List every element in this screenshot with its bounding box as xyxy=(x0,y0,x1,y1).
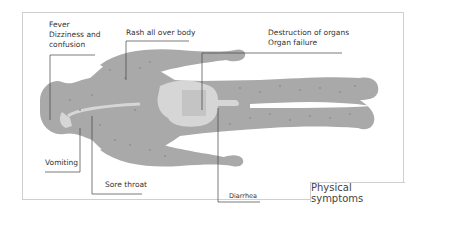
label-fever: Fever Dizziness and confusion xyxy=(49,20,101,50)
label-organs-line2: Organ failure xyxy=(268,38,349,48)
label-diarrhea: Diarrhea xyxy=(229,191,257,201)
label-rash: Rash all over body xyxy=(126,28,196,38)
label-organs: Destruction of organs Organ failure xyxy=(268,28,349,48)
label-fever-line3: confusion xyxy=(49,40,101,50)
label-vomiting: Vomiting xyxy=(45,158,78,168)
label-sore-throat: Sore throat xyxy=(105,180,147,190)
diagram-title: Physical symptoms xyxy=(311,182,405,204)
label-organs-line1: Destruction of organs xyxy=(268,28,349,38)
label-fever-line1: Fever xyxy=(49,20,101,30)
label-fever-line2: Dizziness and xyxy=(49,30,101,40)
title-box: Physical symptoms xyxy=(310,182,405,202)
organ-center xyxy=(182,90,206,116)
